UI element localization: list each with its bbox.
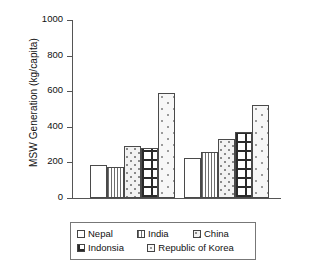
legend-item-nepal: Nepal [77,229,137,239]
legend-swatch-nepal-icon [77,230,85,238]
bar-1995-india [107,167,124,198]
msw-generation-bar-chart: MSW Generation (kg/capita) 0 200 400 600… [0,0,319,275]
legend-item-india: India [137,229,193,239]
bar-1995-republic-of-korea [158,93,175,198]
legend-item-indonsia: Indonsia [77,243,147,253]
chart-legend: Nepal India China Indonsia Republic of K… [70,222,256,260]
y-tick-label-200: 200 [47,155,63,166]
bar-1995-indonsia [141,148,158,198]
y-tick-label-800: 800 [47,49,63,60]
y-tick-400: 400 [67,127,72,128]
y-tick-600: 600 [67,91,72,92]
legend-swatch-republic-of-korea-icon [147,244,155,252]
legend-label-nepal: Nepal [88,229,113,239]
legend-item-republic-of-korea: Republic of Korea [147,243,249,253]
bar-group-2025 [184,20,274,198]
y-tick-label-600: 600 [47,84,63,95]
y-axis-line [72,20,73,199]
legend-label-india: India [148,229,169,239]
bar-1995-nepal [90,165,107,198]
y-tick-800: 800 [67,56,72,57]
y-tick-1000: 1000 [67,20,72,21]
legend-swatch-india-icon [137,230,145,238]
bar-2025-nepal [184,158,201,198]
legend-row-2: Indonsia Republic of Korea [77,241,249,255]
y-tick-0: 0 [67,198,72,199]
bar-group-1995 [90,20,180,198]
y-tick-label-0: 0 [58,191,63,202]
legend-label-republic-of-korea: Republic of Korea [158,243,234,253]
legend-swatch-indonsia-icon [77,244,85,252]
y-axis-title: MSW Generation (kg/capita) [28,13,39,193]
bar-2025-china [218,139,235,198]
bar-2025-india [201,152,218,198]
legend-swatch-china-icon [193,230,201,238]
bar-2025-indonsia [235,132,252,198]
legend-item-china: China [193,229,247,239]
bar-2025-republic-of-korea [252,105,269,198]
legend-label-china: China [204,229,229,239]
y-tick-label-400: 400 [47,120,63,131]
y-tick-200: 200 [67,162,72,163]
x-axis-line [72,198,281,199]
legend-row-1: Nepal India China [77,227,249,241]
legend-label-indonsia: Indonsia [88,243,124,253]
bar-1995-china [124,146,141,198]
y-tick-label-1000: 1000 [42,13,63,24]
plot-area: 0 200 400 600 800 1000 [72,20,280,198]
